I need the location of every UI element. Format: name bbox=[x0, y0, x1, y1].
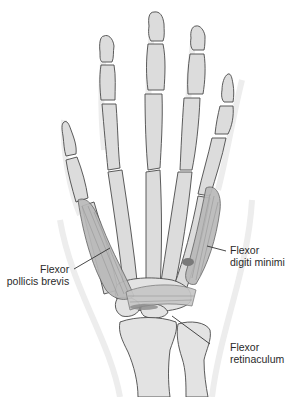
label-line1: Flexor bbox=[6, 263, 69, 275]
label-flexor-digiti-minimi: Flexor digiti minimi bbox=[230, 244, 285, 268]
thumb-bones bbox=[62, 121, 88, 202]
hand-anatomy-figure: Flexor pollicis brevis Flexor digiti min… bbox=[0, 0, 291, 397]
label-line1: Flexor bbox=[230, 341, 284, 353]
hand-illustration bbox=[0, 0, 291, 397]
label-line2: digiti minimi bbox=[230, 256, 285, 268]
label-line2: retinaculum bbox=[230, 353, 284, 365]
forearm-bones bbox=[119, 318, 210, 397]
label-flexor-retinaculum: Flexor retinaculum bbox=[230, 341, 284, 365]
label-flexor-pollicis-brevis: Flexor pollicis brevis bbox=[6, 263, 69, 287]
label-line1: Flexor bbox=[230, 244, 285, 256]
ring-finger-bones bbox=[180, 26, 205, 170]
label-line2: pollicis brevis bbox=[6, 275, 69, 287]
